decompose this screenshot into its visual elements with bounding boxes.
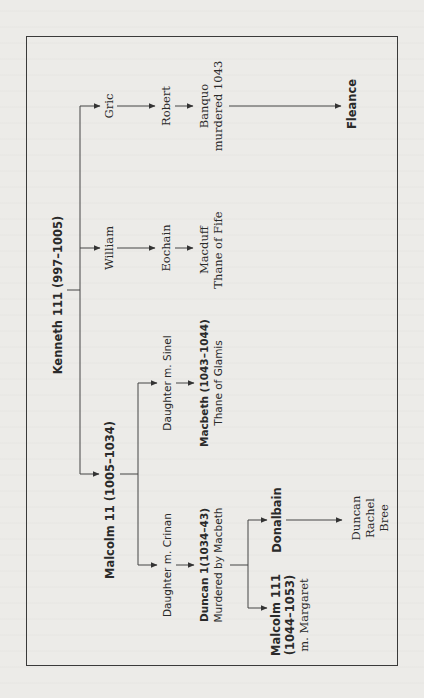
- node-donalbain-children: Duncan Rachel Bree: [349, 496, 391, 541]
- malcolm-ii-dates: (1005–1034): [103, 421, 117, 501]
- node-malcolm-iii: Malcolm 111 (1044–1053) m. Margaret: [269, 574, 311, 656]
- node-eochain: Eochain: [159, 224, 173, 271]
- node-fleance: Fleance: [345, 79, 359, 129]
- node-donalbain: Donalbain: [270, 487, 284, 552]
- macbeth-title: Thane of Glamis: [211, 319, 225, 447]
- macbeth-name: Macbeth (1043–1044): [197, 319, 211, 447]
- node-kenneth-iii: Kenneth 111 (997–1005): [51, 216, 65, 375]
- duncan-i-note: Murdered by Macbeth: [211, 508, 225, 623]
- node-robert: Robert: [159, 86, 173, 126]
- malcolm-iii-spouse: m. Margaret: [297, 574, 311, 656]
- child-bree: Bree: [377, 496, 391, 541]
- banquo-name: Banquo: [197, 61, 211, 152]
- node-malcolm-ii: Malcolm 11 (1005–1034): [103, 421, 117, 579]
- child-rachel: Rachel: [363, 496, 377, 541]
- macduff-name: Macduff: [197, 211, 211, 288]
- malcolm-ii-name: Malcolm 11: [103, 505, 117, 579]
- node-macbeth: Macbeth (1043–1044) Thane of Glamis: [197, 319, 225, 447]
- macduff-title: Thane of Fife: [211, 211, 225, 288]
- malcolm-iii-name: Malcolm 111: [269, 574, 283, 656]
- child-duncan: Duncan: [349, 496, 363, 541]
- malcolm-iii-dates: (1044–1053): [283, 574, 297, 656]
- kenneth-dates: (997–1005): [51, 216, 65, 288]
- node-banquo: Banquo murdered 1043: [197, 61, 225, 152]
- duncan-i-name: Duncan 1(1034–43): [197, 508, 211, 623]
- node-duncan-i: Duncan 1(1034–43) Murdered by Macbeth: [197, 508, 225, 623]
- banquo-note: murdered 1043: [211, 61, 225, 152]
- node-daughter-crinan: Daughter m. Crinan: [160, 513, 174, 617]
- node-william: William: [102, 226, 116, 270]
- kenneth-name: Kenneth 111: [51, 292, 65, 374]
- node-daughter-sinel: Daughter m. Sinel: [160, 335, 174, 430]
- node-macduff: Macduff Thane of Fife: [197, 211, 225, 288]
- node-gric: Gric: [102, 94, 116, 119]
